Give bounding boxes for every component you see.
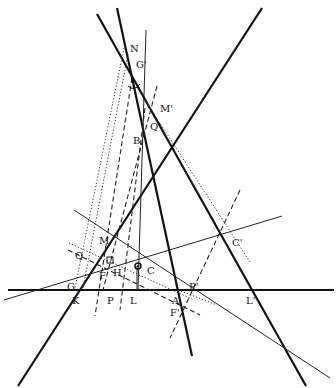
thin-line [74,210,330,378]
point-label-gp: G' [136,59,147,70]
point-label-b: B [133,135,140,146]
point-label-pp: P' [189,281,198,292]
diagram-canvas: NG'M'Q'BMQHCFGC'KPLAP'F'L' [0,0,336,388]
point-label-n: N [130,43,139,54]
point-label-m: M [99,235,109,246]
point-label-q: Q [75,250,83,261]
point-label-c: C [147,265,155,276]
dotted-line [69,243,194,300]
thick-lines [8,8,334,386]
thin-lines [4,30,330,378]
thick-line [117,8,192,356]
point-label-l: L [130,295,137,306]
point-label-p: P [107,295,114,306]
point-label-h: H [113,267,122,278]
point-label-qp: Q' [150,121,161,132]
point-labels: NG'M'Q'BMQHCFGC'KPLAP'F'L' [67,43,255,318]
point-label-k: K [72,295,80,306]
point-label-g: G [67,281,75,292]
point-label-a: A [171,295,180,306]
dotted-line [178,290,217,305]
point-label-cp: C' [232,237,242,248]
thick-line [97,14,306,386]
point-c-dot [137,265,139,267]
point-label-lp: L' [246,295,255,306]
point-label-mp: M' [160,103,173,114]
point-label-fp: F' [170,307,180,318]
geometry-figure: NG'M'Q'BMQHCFGC'KPLAP'F'L' [0,0,336,388]
point-label-f: F [99,270,106,281]
dashed-line [170,190,240,338]
